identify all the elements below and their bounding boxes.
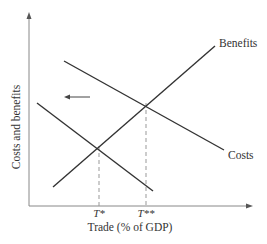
y-axis-arrow-icon (27, 12, 32, 19)
t-star-star-label: T** (137, 207, 155, 219)
chart: Benefits Costs T* T** Trade (% of GDP) C… (0, 0, 267, 244)
left-arrow-icon (64, 95, 70, 100)
y-axis-label: Costs and benefits (10, 84, 22, 169)
costs-label: Costs (228, 149, 254, 161)
costs-line (64, 61, 224, 150)
t-star-label: T* (93, 207, 105, 219)
x-axis-label: Trade (% of GDP) (88, 221, 173, 234)
x-axis-arrow-icon (246, 204, 253, 209)
benefits-line (53, 46, 215, 187)
costs-shifted-line (37, 103, 153, 191)
benefits-label: Benefits (219, 37, 258, 49)
